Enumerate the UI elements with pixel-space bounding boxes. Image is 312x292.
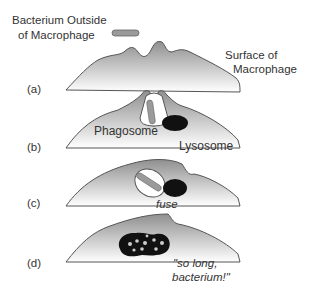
surface-label-line2: Macrophage xyxy=(233,63,297,76)
bacterium-outside-label-line2: of Macrophage xyxy=(18,29,95,42)
stage-c-label: (c) xyxy=(27,197,40,210)
phagolysosome-d xyxy=(119,233,170,257)
stage-d-label: (d) xyxy=(27,257,41,270)
lysosome-label: Lysosome xyxy=(179,140,233,153)
macrophage-cell-a xyxy=(66,41,240,92)
phagocytosis-diagram xyxy=(0,0,312,292)
surface-label-line1: Surface of xyxy=(225,49,277,62)
phagosome-label: Phagosome xyxy=(94,125,158,138)
stage-a-label: (a) xyxy=(27,83,41,96)
lysosome-c xyxy=(163,179,187,197)
bacterium-outside-label-line1: Bacterium Outside xyxy=(12,14,107,27)
fuse-caption: fuse xyxy=(156,198,178,211)
so-long-caption-line2: bacterium!" xyxy=(172,271,230,284)
bacterium-outside xyxy=(112,30,139,36)
stage-b-label: (b) xyxy=(27,141,41,154)
so-long-caption-line1: "so long, xyxy=(173,257,217,270)
lysosome-b xyxy=(162,115,188,131)
